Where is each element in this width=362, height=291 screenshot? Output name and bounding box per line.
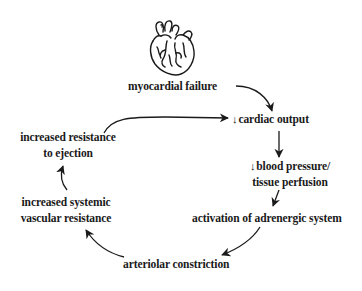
node-myocardial-failure: myocardial failure (128, 78, 217, 94)
node-adrenergic-activation: activation of adrenergic system (192, 210, 342, 226)
myocardial-failure-label: myocardial failure (128, 80, 217, 92)
svr-label-line1: increased systemic (14, 194, 118, 210)
node-arteriolar-constriction: arteriolar constriction (123, 256, 229, 272)
ejection-label-line2: to ejection (16, 145, 120, 161)
arteriolar-label: arteriolar constriction (123, 258, 229, 270)
adrenergic-label: activation of adrenergic system (192, 212, 342, 224)
ejection-label-line1: increased resistance (16, 129, 120, 145)
heart-failure-cycle-diagram: myocardial failure ↓cardiac output ↓bloo… (0, 0, 362, 291)
decrease-arrow-icon: ↓ (232, 111, 237, 127)
node-cardiac-output: ↓cardiac output (232, 111, 309, 127)
blood-pressure-label-line1: blood pressure/ (256, 160, 330, 172)
cardiac-output-label: cardiac output (238, 113, 308, 125)
node-blood-pressure: ↓blood pressure/ tissue perfusion (240, 158, 340, 190)
svr-label-line2: vascular resistance (14, 210, 118, 226)
node-systemic-vascular-resistance: increased systemic vascular resistance (14, 194, 118, 226)
node-resistance-to-ejection: increased resistance to ejection (16, 129, 120, 161)
decrease-arrow-icon: ↓ (250, 158, 255, 174)
blood-pressure-label-line2: tissue perfusion (240, 174, 340, 190)
